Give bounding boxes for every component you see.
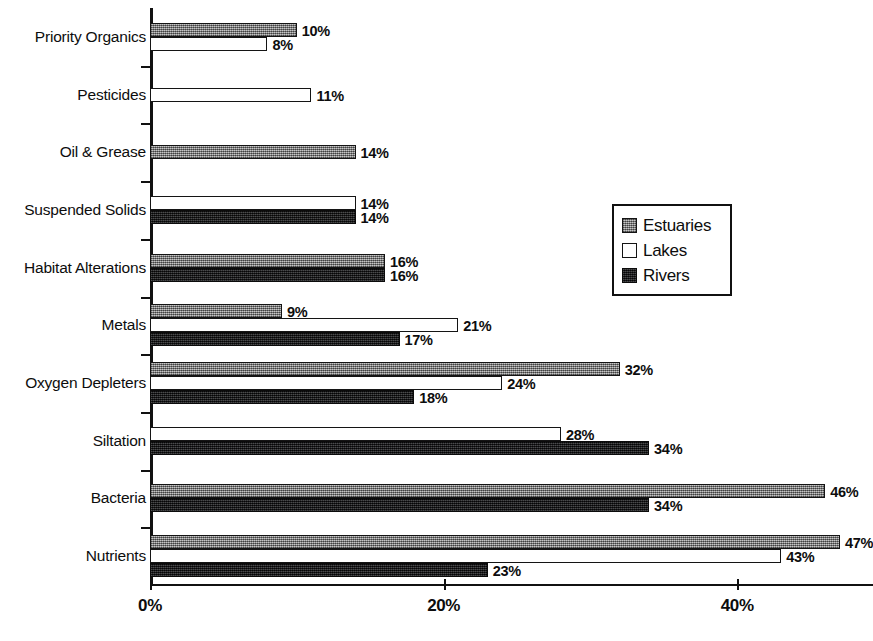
legend-item-rivers: Rivers (622, 263, 724, 288)
y-axis-label-nutrients: Nutrients (0, 547, 146, 565)
legend-swatch-rivers-icon (622, 268, 637, 283)
bar-value-label: 14% (361, 210, 389, 226)
bar-value-label: 46% (830, 484, 858, 500)
x-axis-tick (737, 579, 739, 590)
x-axis-tick (444, 579, 446, 590)
y-axis-tick (141, 123, 151, 125)
bar-rivers (150, 210, 356, 224)
bar-value-label: 11% (316, 88, 343, 104)
y-axis-category-labels: Priority OrganicsPesticidesOil & GreaseS… (0, 0, 146, 641)
legend-label-lakes: Lakes (643, 241, 687, 261)
y-axis-tick (141, 412, 151, 414)
x-axis-line (150, 584, 873, 586)
bar-lakes (150, 196, 356, 210)
x-axis-tick (150, 579, 152, 590)
x-axis-tick-label: 40% (721, 596, 754, 616)
bar-lakes (150, 88, 311, 102)
y-axis-tick (141, 239, 151, 241)
x-axis-tick-label: 20% (427, 596, 460, 616)
bar-lakes (150, 427, 561, 441)
bar-lakes (150, 549, 781, 563)
bar-value-label: 34% (654, 498, 682, 514)
bar-value-label: 43% (786, 549, 814, 565)
legend-label-rivers: Rivers (643, 266, 689, 286)
y-axis-label-siltation: Siltation (0, 432, 146, 450)
chart-legend: Estuaries Lakes Rivers (612, 204, 732, 296)
bar-rivers (150, 268, 385, 282)
bar-value-label: 34% (654, 441, 682, 457)
bar-value-label: 8% (272, 37, 292, 53)
bar-lakes (150, 318, 458, 332)
y-axis-label-oil-grease: Oil & Grease (0, 143, 146, 161)
y-axis-label-priority-organics: Priority Organics (0, 28, 146, 46)
y-axis-label-suspended-solids: Suspended Solids (0, 201, 146, 219)
bar-value-label: 24% (507, 376, 535, 392)
bar-estuaries (150, 304, 282, 318)
y-axis-label-bacteria: Bacteria (0, 489, 146, 507)
y-axis-tick (141, 66, 151, 68)
bar-estuaries (150, 145, 356, 159)
legend-item-estuaries: Estuaries (622, 213, 724, 238)
bar-value-label: 47% (845, 535, 873, 551)
bar-estuaries (150, 23, 297, 37)
bar-lakes (150, 376, 502, 390)
legend-swatch-lakes-icon (622, 243, 637, 258)
legend-swatch-estuaries-icon (622, 218, 637, 233)
y-axis-tick (141, 297, 151, 299)
bar-estuaries (150, 535, 840, 549)
bar-value-label: 10% (302, 23, 330, 39)
bar-estuaries (150, 362, 620, 376)
bar-rivers (150, 498, 649, 512)
y-axis-tick (141, 470, 151, 472)
bar-rivers (150, 441, 649, 455)
bar-value-label: 17% (405, 332, 433, 348)
bar-estuaries (150, 484, 825, 498)
y-axis-tick (141, 527, 151, 529)
y-axis-label-oxygen-depleters: Oxygen Depleters (0, 374, 146, 392)
bar-value-label: 32% (625, 362, 653, 378)
y-axis-label-metals: Metals (0, 316, 146, 334)
bar-value-label: 21% (463, 318, 491, 334)
legend-item-lakes: Lakes (622, 238, 724, 263)
bar-chart: Priority OrganicsPesticidesOil & GreaseS… (0, 0, 873, 641)
bar-lakes (150, 37, 267, 51)
bar-value-label: 18% (419, 390, 447, 406)
legend-label-estuaries: Estuaries (643, 216, 711, 236)
y-axis-tick (141, 354, 151, 356)
bar-value-label: 23% (493, 563, 521, 579)
y-axis-label-pesticides: Pesticides (0, 86, 146, 104)
bar-value-label: 14% (361, 145, 389, 161)
y-axis-tick (141, 181, 151, 183)
y-axis-label-habitat-alterations: Habitat Alterations (0, 259, 146, 277)
bar-value-label: 16% (390, 268, 418, 284)
bar-estuaries (150, 254, 385, 268)
bar-rivers (150, 390, 414, 404)
bar-rivers (150, 332, 400, 346)
x-axis-tick-label: 0% (138, 596, 162, 616)
bar-rivers (150, 563, 488, 577)
